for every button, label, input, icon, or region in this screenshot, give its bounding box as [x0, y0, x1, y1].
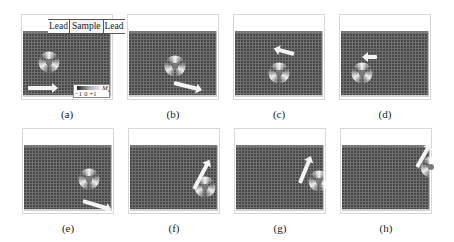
panel-b: (b) — [127, 14, 219, 100]
vortex-core — [428, 164, 434, 170]
panel-f: (f) — [128, 128, 220, 214]
colorbar-ticks: −1 0 +1 — [75, 90, 97, 97]
panel-a: LeadSampleLeadMz−1 0 +1(a) — [21, 14, 113, 100]
sample-label: Sample — [69, 20, 104, 33]
panel-label: (f) — [154, 222, 194, 234]
vortex-core — [202, 184, 208, 190]
lead-left-label: Lead — [48, 20, 69, 33]
track-edge — [341, 31, 428, 33]
panel-frame — [128, 128, 220, 214]
track-edge — [235, 31, 322, 33]
vortex-core — [316, 178, 322, 184]
track-edge — [130, 145, 217, 147]
panel-frame — [234, 128, 326, 214]
panel-frame — [339, 14, 431, 100]
panel-frame — [22, 128, 114, 214]
colorbar-label: Mz — [102, 84, 110, 93]
velocity-arrow-icon — [367, 55, 377, 59]
velocity-arrow-icon — [28, 86, 53, 90]
lead-right-label: Lead — [104, 20, 125, 33]
colorbar-legend: Mz−1 0 +1 — [73, 84, 110, 98]
panel-h: (h) — [340, 128, 432, 214]
vortex-core — [172, 63, 178, 69]
panel-label: (d) — [365, 108, 405, 120]
vortex-core — [46, 59, 52, 65]
track-edge — [129, 31, 216, 33]
panel-frame — [340, 128, 432, 214]
panel-frame — [127, 14, 219, 100]
vortex-core — [86, 176, 92, 182]
panel-g: (g) — [234, 128, 326, 214]
panel-label: (c) — [259, 108, 299, 120]
panel-label: (e) — [48, 222, 88, 234]
track-edge — [236, 145, 323, 147]
panel-label: (b) — [153, 108, 193, 120]
panel-frame: LeadSampleLeadMz−1 0 +1 — [21, 14, 113, 100]
panel-frame — [233, 14, 325, 100]
nanotrack — [342, 145, 430, 211]
panel-label: (g) — [260, 222, 300, 234]
panel-c: (c) — [233, 14, 325, 100]
panel-label: (h) — [366, 222, 406, 234]
panel-d: (d) — [339, 14, 431, 100]
vortex-core — [359, 70, 365, 76]
track-edge — [24, 145, 111, 147]
track-edge — [342, 145, 429, 147]
panel-e: (e) — [22, 128, 114, 214]
leads-header: LeadSampleLead — [48, 19, 125, 34]
panel-label: (a) — [47, 108, 87, 120]
vortex-core — [276, 70, 282, 76]
